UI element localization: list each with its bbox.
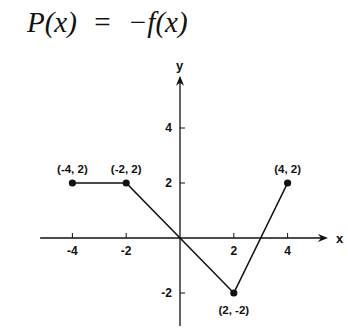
point-label: (2, -2): [218, 304, 249, 316]
point-label: (4, 2): [274, 163, 301, 175]
point-label: (-2, 2): [111, 163, 142, 175]
x-tick-label: -4: [67, 244, 78, 258]
data-point: [69, 179, 76, 186]
y-tick-label: 4: [165, 121, 172, 135]
data-point: [284, 179, 291, 186]
x-tick-label: 2: [230, 244, 237, 258]
x-tick-label: -2: [121, 244, 132, 258]
y-axis-label: y: [176, 58, 184, 73]
point-label: (-4, 2): [57, 163, 88, 175]
data-point: [230, 289, 237, 296]
data-point: [123, 179, 130, 186]
y-tick-label: 2: [165, 176, 172, 190]
y-tick-label: -2: [161, 286, 172, 300]
plot-area: xy-4-22442-2(-4, 2)(-2, 2)(2, -2)(4, 2): [0, 0, 348, 334]
x-tick-label: 4: [284, 244, 291, 258]
x-axis-label: x: [336, 231, 344, 246]
